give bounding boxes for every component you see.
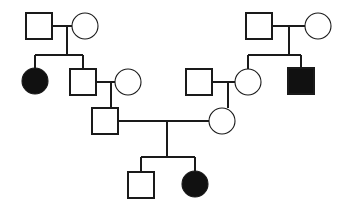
individual-male-unaffected[interactable] xyxy=(92,108,118,134)
individual-male-unaffected[interactable] xyxy=(70,69,96,95)
individual-female-unaffected[interactable] xyxy=(115,69,141,95)
pedigree-chart xyxy=(0,0,344,211)
individual-female-unaffected[interactable] xyxy=(305,13,331,39)
individual-male-unaffected[interactable] xyxy=(186,69,212,95)
mating-II2-II3 xyxy=(96,82,115,108)
individual-female-affected[interactable] xyxy=(22,68,48,94)
individual-female-unaffected[interactable] xyxy=(209,108,235,134)
individual-male-unaffected[interactable] xyxy=(26,13,52,39)
mating-III1-III2 xyxy=(118,121,209,172)
individual-female-unaffected[interactable] xyxy=(235,69,261,95)
individual-female-unaffected[interactable] xyxy=(72,13,98,39)
individual-male-affected[interactable] xyxy=(288,68,314,94)
individual-female-affected[interactable] xyxy=(182,171,208,197)
individual-male-unaffected[interactable] xyxy=(246,13,272,39)
pedigree-canvas xyxy=(0,0,344,211)
mating-II4-II5 xyxy=(212,82,235,108)
individual-male-unaffected[interactable] xyxy=(128,172,154,198)
